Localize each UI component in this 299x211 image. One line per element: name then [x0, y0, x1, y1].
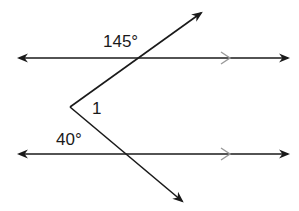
geometry-diagram: [0, 0, 299, 211]
angle-label-1: 1: [92, 100, 101, 117]
angle-label-145: 145°: [103, 33, 138, 50]
upper-ray: [70, 13, 201, 107]
angle-label-40: 40°: [56, 131, 82, 148]
